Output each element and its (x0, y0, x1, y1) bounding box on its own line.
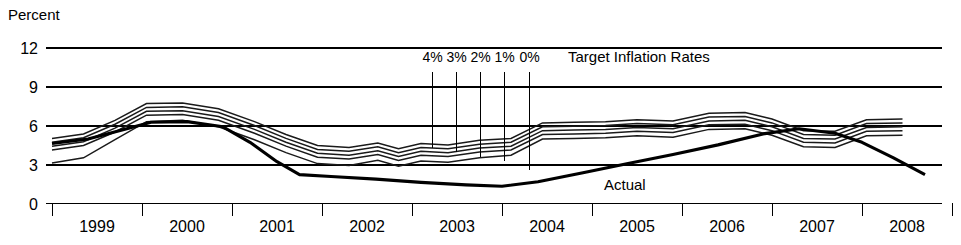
target-rate-label-2pct: 2% (470, 49, 490, 65)
target-rate-label-4pct: 4% (422, 49, 442, 65)
target-rate-label-1pct: 1% (494, 49, 514, 65)
y-tick-label-0: 0 (29, 196, 38, 213)
y-tick-label-6: 6 (29, 118, 38, 135)
x-tick-label-2002: 2002 (349, 218, 385, 235)
x-tick-label-2003: 2003 (439, 218, 475, 235)
x-tick-label-2008: 2008 (889, 218, 925, 235)
actual-series-label: Actual (604, 176, 646, 193)
target-rate-labels: 4%3%2%1%0% (422, 49, 539, 65)
x-tick-label-1999: 1999 (79, 218, 115, 235)
y-axis-title: Percent (8, 6, 61, 23)
target-rate-label-0pct: 0% (519, 49, 539, 65)
series-target-3pct (52, 107, 903, 153)
x-tick-label-2005: 2005 (619, 218, 655, 235)
x-tick-label-2006: 2006 (709, 218, 745, 235)
x-tick-label-2004: 2004 (529, 218, 565, 235)
inflation-fan-chart: Percent 12 9 6 3 0 4%3%2%1%0% Target Inf… (0, 0, 961, 245)
y-tick-label-9: 9 (29, 79, 38, 96)
y-axis-tick-labels: 12 9 6 3 0 (20, 40, 38, 213)
target-rate-label-3pct: 3% (446, 49, 466, 65)
y-tick-label-12: 12 (20, 40, 38, 57)
plot-series-group (52, 103, 925, 186)
x-axis-ticks: 1999200020012002200320042005200620072008 (53, 203, 953, 235)
y-tick-label-3: 3 (29, 157, 38, 174)
x-tick-label-2007: 2007 (799, 218, 835, 235)
x-tick-label-2001: 2001 (259, 218, 295, 235)
x-tick-label-2000: 2000 (169, 218, 205, 235)
target-inflation-rates-legend: Target Inflation Rates (568, 48, 710, 65)
chart-canvas: Percent 12 9 6 3 0 4%3%2%1%0% Target Inf… (0, 0, 961, 245)
